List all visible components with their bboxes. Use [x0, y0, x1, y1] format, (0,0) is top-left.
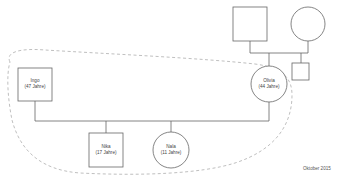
nala-label: Nala (11 Jahre) [161, 144, 182, 156]
ingo-age: (47 Jahre) [25, 84, 46, 90]
grandparents-marriage-line [250, 41, 308, 53]
ingo-label: Ingo (47 Jahre) [25, 78, 46, 90]
diagram-date: Oktober 2015 [303, 166, 331, 171]
olivia-sibling-symbol [292, 63, 309, 80]
olivia-age: (44 Jahre) [259, 84, 280, 90]
couple-marriage-line [35, 101, 269, 121]
grandfather-symbol [233, 7, 267, 41]
nika-age: (17 Jahre) [96, 150, 117, 156]
olivia-label: Olivia (44 Jahre) [259, 78, 280, 90]
grandmother-symbol [291, 7, 325, 41]
nika-label: Nika (17 Jahre) [96, 144, 117, 156]
nala-age: (11 Jahre) [161, 150, 182, 156]
